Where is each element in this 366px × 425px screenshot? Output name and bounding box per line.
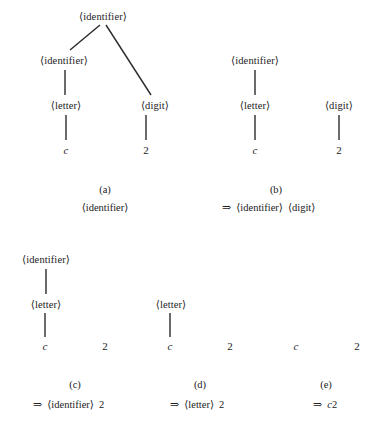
caption-c-part2: 2 <box>99 399 104 410</box>
caption-b: ⇒⟨identifier⟩⟨digit⟩ <box>222 202 315 214</box>
tree-c-leaf-c: c <box>43 341 48 352</box>
derivation-figure: ⟨identifier⟩ ⟨identifier⟩ ⟨letter⟩ ⟨digi… <box>0 0 366 425</box>
edge-a-root-to-digit <box>106 25 151 95</box>
caption-d-arrow-icon: ⇒ <box>170 398 181 410</box>
tree-b-leaf-c: c <box>253 145 258 156</box>
tree-d-leaf-2: 2 <box>227 341 233 352</box>
edge-a-root-to-left <box>70 25 100 50</box>
caption-a: ⟨identifier⟩ <box>82 203 129 214</box>
caption-e-part2: 2 <box>332 399 337 410</box>
tree-a-root-identifier: ⟨identifier⟩ <box>79 12 127 23</box>
tree-e-leaf-c: c <box>294 341 299 352</box>
tree-b-digit: ⟨digit⟩ <box>325 101 353 112</box>
caption-e-arrow-icon: ⇒ <box>313 398 324 410</box>
tree-b-letter: ⟨letter⟩ <box>240 101 271 112</box>
caption-d: ⇒⟨letter⟩2 <box>170 399 224 411</box>
caption-b-part1: ⟨identifier⟩ <box>236 202 283 213</box>
tree-d-leaf-c: c <box>168 341 173 352</box>
caption-b-arrow-icon: ⇒ <box>222 201 233 213</box>
caption-d-part2: 2 <box>219 399 224 410</box>
panel-label-b: (b) <box>270 185 282 196</box>
caption-e: ⇒c2 <box>313 399 337 411</box>
panel-label-e: (e) <box>320 380 332 391</box>
tree-e-leaf-2: 2 <box>354 341 360 352</box>
tree-a-letter: ⟨letter⟩ <box>51 101 82 112</box>
tree-a-left-identifier: ⟨identifier⟩ <box>40 56 88 67</box>
tree-a-leaf-c: c <box>64 145 69 156</box>
caption-c-part1: ⟨identifier⟩ <box>47 399 94 410</box>
panel-label-c: (c) <box>69 380 81 391</box>
caption-b-part2: ⟨digit⟩ <box>288 202 315 213</box>
tree-c-identifier: ⟨identifier⟩ <box>22 255 70 266</box>
caption-a-text: ⟨identifier⟩ <box>82 202 129 213</box>
panel-label-a: (a) <box>99 185 111 196</box>
tree-a-digit: ⟨digit⟩ <box>141 101 169 112</box>
tree-b-leaf-2: 2 <box>336 145 342 156</box>
caption-d-part1: ⟨letter⟩ <box>184 399 214 410</box>
caption-c-arrow-icon: ⇒ <box>33 398 44 410</box>
tree-c-letter: ⟨letter⟩ <box>31 300 62 311</box>
tree-a-leaf-2: 2 <box>143 145 149 156</box>
tree-c-leaf-2: 2 <box>102 341 108 352</box>
tree-d-letter: ⟨letter⟩ <box>156 300 187 311</box>
tree-b-identifier: ⟨identifier⟩ <box>231 56 279 67</box>
caption-c: ⇒⟨identifier⟩2 <box>33 399 104 411</box>
panel-label-d: (d) <box>194 380 206 391</box>
